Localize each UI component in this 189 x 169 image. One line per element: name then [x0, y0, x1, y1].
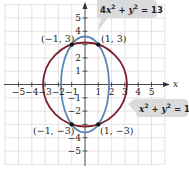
svg-text:−1: −1 [68, 93, 81, 103]
ellipse-equation-callout: 4x2 + y2 = 13 [97, 0, 163, 32]
point-1-3 [96, 42, 100, 46]
svg-text:1: 1 [95, 87, 101, 97]
svg-text:−4: −4 [25, 87, 39, 97]
y-axis-arrow-icon [83, 2, 88, 9]
circle-equation-callout: x2 + y2 = 10 [128, 99, 189, 117]
x-tick-labels: −5 −4 −3 −2 −1 1 2 3 4 5 [12, 87, 155, 97]
svg-text:−2: −2 [68, 106, 81, 116]
graph-figure: x −5 −4 −3 −2 −1 1 2 3 4 5 [0, 0, 189, 169]
point-label-neg1-3: (−1, 3) [41, 33, 75, 44]
svg-text:−5: −5 [12, 87, 26, 97]
point-label-1-neg3: (1, −3) [100, 125, 134, 136]
svg-text:2: 2 [109, 87, 115, 97]
point-label-neg1-neg3: (−1, −3) [33, 125, 74, 136]
svg-text:4x2 + y2 = 13: 4x2 + y2 = 13 [100, 3, 163, 15]
x-axis-arrow-icon [163, 82, 170, 87]
axes [4, 6, 166, 166]
svg-text:5: 5 [149, 87, 155, 97]
svg-text:4: 4 [135, 87, 141, 97]
svg-text:4: 4 [75, 26, 81, 36]
svg-text:2: 2 [75, 53, 81, 63]
svg-text:−2: −2 [52, 87, 65, 97]
svg-text:−5: −5 [68, 146, 82, 156]
svg-text:3: 3 [122, 87, 128, 97]
svg-text:−3: −3 [38, 87, 52, 97]
x-axis-label: x [173, 79, 178, 89]
point-label-1-3: (1, 3) [101, 33, 127, 44]
svg-text:5: 5 [75, 13, 81, 23]
svg-text:1: 1 [75, 66, 81, 76]
